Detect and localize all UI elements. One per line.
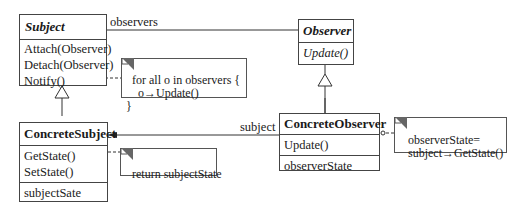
operation-update: Update() <box>284 137 375 153</box>
class-observer[interactable]: Observer Update() <box>298 19 354 65</box>
subject-association-label: subject <box>240 120 275 135</box>
class-subject-name: Subject <box>20 15 106 39</box>
operation-notify: Notify() <box>24 73 102 89</box>
note-folded-corner-icon <box>121 148 133 160</box>
class-concrete-subject-attributes: subjectSate <box>20 182 107 203</box>
note-update: observerState= subject→GetState() <box>394 117 507 153</box>
class-observer-name: Observer <box>299 20 353 42</box>
class-concrete-subject-name: ConcreteSubject <box>20 123 107 145</box>
note-folded-corner-icon <box>395 117 407 129</box>
class-observer-operations: Update() <box>299 42 353 63</box>
operation-getstate: GetState() <box>24 148 103 164</box>
class-concrete-subject[interactable]: ConcreteSubject GetState() SetState() su… <box>19 122 108 202</box>
attribute-observerstate: observerState <box>284 158 375 174</box>
attribute-subjectsate: subjectSate <box>24 185 103 201</box>
observers-association-label: observers <box>110 15 158 30</box>
observer-generalization-triangle-icon <box>318 74 332 86</box>
note-folded-corner-icon <box>122 58 134 70</box>
operation-setstate: SetState() <box>24 164 103 180</box>
operation-attach: Attach(Observer) <box>24 41 102 57</box>
note-getstate: return subjectState <box>120 148 217 176</box>
class-concrete-observer-name: ConcreteObserver <box>280 114 379 134</box>
class-concrete-subject-operations: GetState() SetState() <box>20 145 107 182</box>
class-subject[interactable]: Subject Attach(Observer) Detach(Observer… <box>19 14 107 86</box>
note-getstate-text: return subjectState <box>132 167 222 181</box>
operation-update-abstract: Update() <box>303 45 349 61</box>
note-notify: for all o in observers { o→Update() } <box>121 58 247 98</box>
class-concrete-observer[interactable]: ConcreteObserver Update() observerState <box>279 113 380 171</box>
class-concrete-observer-attributes: observerState <box>280 155 379 176</box>
class-concrete-observer-operations: Update() <box>280 134 379 155</box>
class-subject-operations: Attach(Observer) Detach(Observer) Notify… <box>20 39 106 91</box>
operation-detach: Detach(Observer) <box>24 57 102 73</box>
note-update-text: observerState= subject→GetState() <box>402 133 503 160</box>
